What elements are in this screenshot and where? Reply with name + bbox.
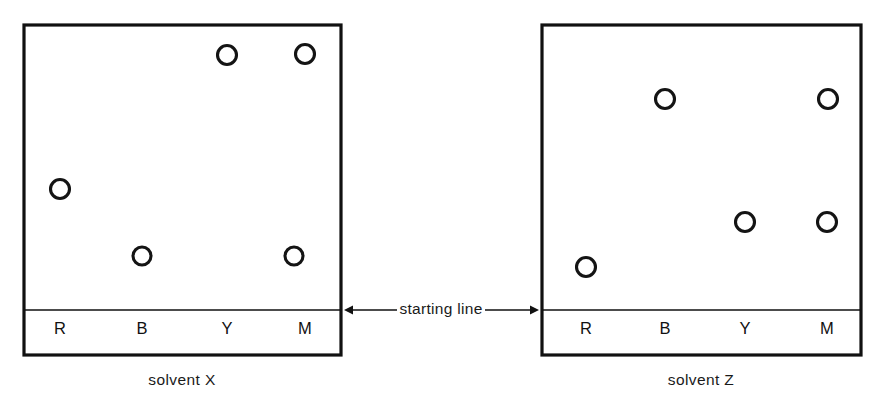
chromatogram-spot-m [296,45,315,64]
chromatogram-spot-m [819,90,838,109]
chromatogram-spot-b [133,247,151,265]
lane-label-b: B [659,319,670,337]
chromatogram-spot-m [285,247,303,265]
plate-captions: solvent X solvent Z [148,371,734,388]
chromatogram-spot-y [736,213,755,232]
chromatogram-spot-y [218,46,237,65]
caption-solvent-z: solvent Z [668,371,735,388]
plate-border-solvent-z [542,25,861,355]
caption-solvent-x: solvent X [148,371,216,388]
starting-line-annotation: starting line [344,300,539,317]
chromatogram-spot-b [656,90,675,109]
plate-solvent-x: RBYM [24,25,341,355]
lane-label-r: R [54,319,66,337]
chromatography-figure: RBYM RBYM starting line solvent X solven… [0,0,877,406]
right-arrow-icon [530,306,539,315]
left-arrow-icon [344,306,353,315]
chromatography-svg: RBYM RBYM starting line solvent X solven… [0,0,877,406]
starting-line-label: starting line [399,300,482,317]
lane-label-y: Y [221,319,232,337]
plate-border-solvent-x [24,25,341,355]
chromatogram-spot-m [818,213,837,232]
lane-label-r: R [580,319,592,337]
lane-label-m: M [820,319,834,337]
plate-solvent-z: RBYM [542,25,861,355]
chromatogram-spot-r [577,258,596,277]
lane-label-b: B [136,319,147,337]
lane-label-m: M [298,319,312,337]
chromatogram-spot-r [51,180,70,199]
lane-label-y: Y [739,319,750,337]
